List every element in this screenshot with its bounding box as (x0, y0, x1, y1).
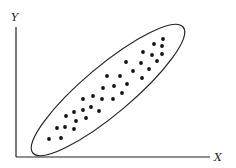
data-point (91, 94, 95, 98)
data-point (74, 119, 78, 123)
data-point (141, 50, 145, 54)
data-point (81, 108, 85, 112)
data-point (64, 114, 68, 118)
data-point (105, 74, 109, 78)
data-point (131, 69, 135, 73)
data-point (97, 109, 101, 113)
data-point (72, 110, 76, 114)
data-point (59, 136, 63, 140)
data-point (161, 37, 165, 41)
data-point (55, 126, 59, 130)
data-point (152, 42, 156, 46)
data-point (139, 61, 143, 65)
data-point (160, 44, 164, 48)
data-point (47, 137, 51, 141)
data-point (124, 60, 128, 64)
data-point (84, 116, 88, 120)
data-point (120, 91, 124, 95)
data-point (147, 67, 151, 71)
data-point (125, 82, 129, 86)
data-points (47, 37, 165, 141)
data-point (140, 76, 144, 80)
data-point (100, 97, 104, 101)
y-axis-label: Y (11, 11, 20, 24)
data-point (63, 125, 67, 129)
data-point (112, 84, 116, 88)
x-axis-label: X (213, 151, 223, 164)
data-point (155, 59, 159, 63)
data-point (81, 97, 85, 101)
data-point (72, 127, 76, 131)
correlation-ellipse (18, 9, 199, 168)
data-point (118, 74, 122, 78)
data-point (160, 52, 164, 56)
data-point (101, 86, 105, 90)
scatter-diagram: Y X (0, 0, 236, 168)
data-point (111, 97, 115, 101)
data-point (150, 53, 154, 57)
data-point (89, 105, 93, 109)
